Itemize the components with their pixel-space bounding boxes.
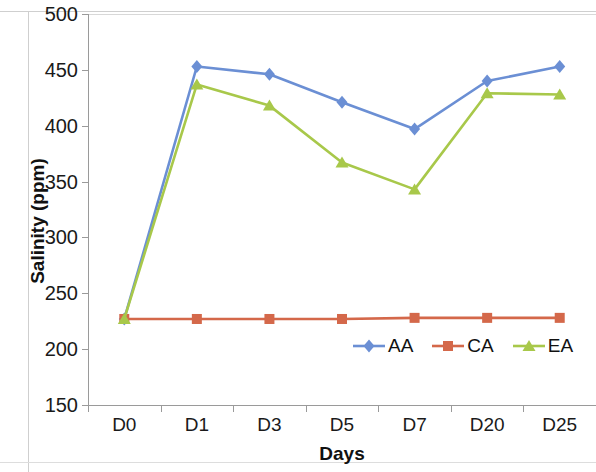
series-line-ea [124,84,559,319]
data-point-ca-D25 [555,313,565,323]
data-point-ca-D20 [482,313,492,323]
data-point-aa-D1 [191,60,202,73]
data-point-ca-D1 [192,314,202,324]
legend-label-ca: CA [467,336,493,355]
salinity-line-chart-figure: 150200250300350400450500 D0D1D3D5D7D20D2… [0,0,596,472]
legend-item-aa: AA [352,336,413,355]
legend-label-ea: EA [548,336,573,355]
series-aa [119,60,565,325]
data-point-aa-D20 [482,75,493,88]
data-point-ca-D7 [410,313,420,323]
legend-swatch-diamond-icon [352,338,386,354]
data-point-aa-D25 [554,60,565,73]
legend-swatch-triangle-icon [512,338,546,354]
legend-item-ea: EA [512,336,573,355]
data-point-aa-D5 [337,96,348,109]
legend-swatch-square-icon [431,338,465,354]
legend-item-ca: CA [431,336,493,355]
x-axis-title: Days [88,443,596,465]
data-point-ca-D5 [337,314,347,324]
data-point-aa-D7 [409,123,420,136]
series-ca [119,313,564,324]
chart-legend: AACAEA [352,336,573,355]
data-point-ca-D3 [264,314,274,324]
series-plot-layer [0,0,596,472]
y-axis-title: Salinity (ppm) [27,121,49,321]
legend-label-aa: AA [388,336,413,355]
data-point-aa-D3 [264,68,275,81]
series-ea [118,78,566,324]
